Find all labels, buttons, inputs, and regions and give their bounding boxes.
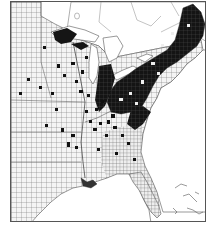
caption-area: [0, 222, 216, 229]
county-choropleth-map: [11, 2, 206, 222]
map-frame: [10, 1, 206, 222]
